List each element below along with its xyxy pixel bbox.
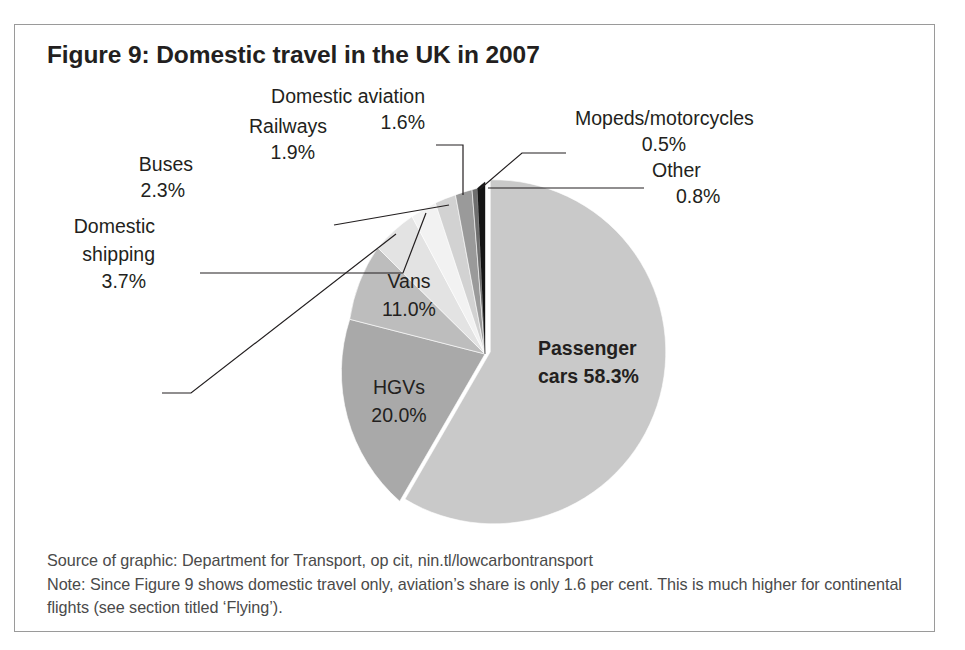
leader-line-domestic-aviation	[436, 145, 463, 195]
pie-label-vans-value: 11.0%	[382, 298, 436, 320]
figure-note: Note: Since Figure 9 shows domestic trav…	[47, 573, 905, 620]
pie-label-domestic-shipping-value: 3.7%	[102, 270, 146, 292]
pie-label-hgvs-value: 20.0%	[371, 404, 426, 426]
pie-label-buses-name: Buses	[139, 153, 193, 175]
pie-label-domestic-shipping-name-line2: shipping	[82, 243, 155, 265]
pie-label-mopeds-motorcycles-name: Mopeds/motorcycles	[575, 107, 754, 129]
pie-label-railways-value: 1.9%	[271, 141, 315, 163]
pie-label-vans-name: Vans	[388, 270, 431, 292]
pie-chart-svg: Domestic aviation 1.6% Railways 1.9% Bus…	[15, 25, 933, 545]
pie-label-mopeds-motorcycles-value: 0.5%	[642, 133, 686, 155]
pie-label-passenger-cars-line1: Passenger	[538, 337, 637, 359]
pie-label-domestic-aviation-value: 1.6%	[381, 111, 425, 133]
figure-box: Figure 9: Domestic travel in the UK in 2…	[14, 24, 935, 632]
pie-chart: Domestic aviation 1.6% Railways 1.9% Bus…	[15, 25, 933, 545]
pie-label-other-value: 0.8%	[676, 185, 720, 207]
pie-label-railways-name: Railways	[249, 115, 327, 137]
figure-source-note: Source of graphic: Department for Transp…	[47, 549, 905, 573]
cut-off-body-text-line	[28, 0, 938, 4]
pie-label-hgvs-name: HGVs	[373, 376, 425, 398]
pie-label-domestic-shipping-name-line1: Domestic	[74, 215, 156, 237]
pie-label-buses-value: 2.3%	[141, 179, 185, 201]
pie-label-domestic-aviation-name: Domestic aviation	[271, 85, 425, 107]
pie-label-other-name: Other	[652, 159, 701, 181]
pie-label-passenger-cars-line2: cars 58.3%	[538, 365, 639, 387]
figure-notes: Source of graphic: Department for Transp…	[47, 549, 905, 620]
